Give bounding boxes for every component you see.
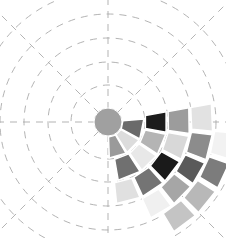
chart-canvas <box>0 0 226 238</box>
center-circle <box>94 108 122 136</box>
heatmap-cell-r4-s1 <box>200 157 226 188</box>
heatmap-cell-r3-s0 <box>191 104 213 131</box>
heatmap-cell-r2-s0 <box>168 108 189 134</box>
center-disc <box>94 108 122 136</box>
heatmap-cells <box>109 104 227 232</box>
polar-heatmap-chart <box>0 0 226 238</box>
grid-spoke-225 <box>0 2 108 122</box>
heatmap-cell-r3-s1 <box>186 132 212 159</box>
heatmap-cell-r1-s0 <box>145 112 166 132</box>
